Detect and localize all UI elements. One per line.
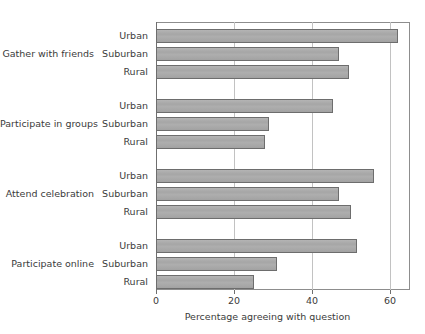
bar[interactable] bbox=[156, 29, 398, 43]
bar[interactable] bbox=[156, 99, 333, 113]
tick-mark-60 bbox=[390, 290, 391, 294]
bar[interactable] bbox=[156, 187, 339, 201]
bar[interactable] bbox=[156, 47, 339, 61]
bar[interactable] bbox=[156, 239, 357, 253]
bar-fill bbox=[156, 169, 374, 183]
bar-fill bbox=[156, 65, 349, 79]
bar[interactable] bbox=[156, 275, 254, 289]
bar[interactable] bbox=[156, 65, 349, 79]
tick-mark-0 bbox=[156, 290, 157, 294]
bar[interactable] bbox=[156, 135, 265, 149]
bar[interactable] bbox=[156, 257, 277, 271]
bar-fill bbox=[156, 135, 265, 149]
tick-mark-20 bbox=[234, 290, 235, 294]
group-label: Attend celebration bbox=[0, 188, 97, 200]
bar[interactable] bbox=[156, 169, 374, 183]
bar-fill bbox=[156, 99, 333, 113]
group-label: Gather with friends bbox=[0, 48, 97, 60]
bar-fill bbox=[156, 29, 398, 43]
x-tick-label: 60 bbox=[375, 295, 405, 306]
bar-fill bbox=[156, 275, 254, 289]
x-tick-label: 0 bbox=[141, 295, 171, 306]
group-label: Participate online bbox=[0, 258, 97, 270]
bar-fill bbox=[156, 117, 269, 131]
bar-fill bbox=[156, 205, 351, 219]
bar-fill bbox=[156, 47, 339, 61]
bar-fill bbox=[156, 239, 357, 253]
bar[interactable] bbox=[156, 205, 351, 219]
tick-mark-40 bbox=[312, 290, 313, 294]
bar-fill bbox=[156, 257, 277, 271]
bar-chart: UrbanSuburbanRuralUrbanSuburbanRuralUrba… bbox=[0, 0, 425, 334]
bars-layer bbox=[156, 22, 410, 290]
x-tick-label: 40 bbox=[297, 295, 327, 306]
group-label: Participate in groups bbox=[0, 118, 97, 130]
x-tick-label: 20 bbox=[219, 295, 249, 306]
bar-fill bbox=[156, 187, 339, 201]
bar[interactable] bbox=[156, 117, 269, 131]
group-labels: Gather with friendsParticipate in groups… bbox=[0, 22, 97, 290]
x-axis-title: Percentage agreeing with question bbox=[0, 311, 425, 322]
